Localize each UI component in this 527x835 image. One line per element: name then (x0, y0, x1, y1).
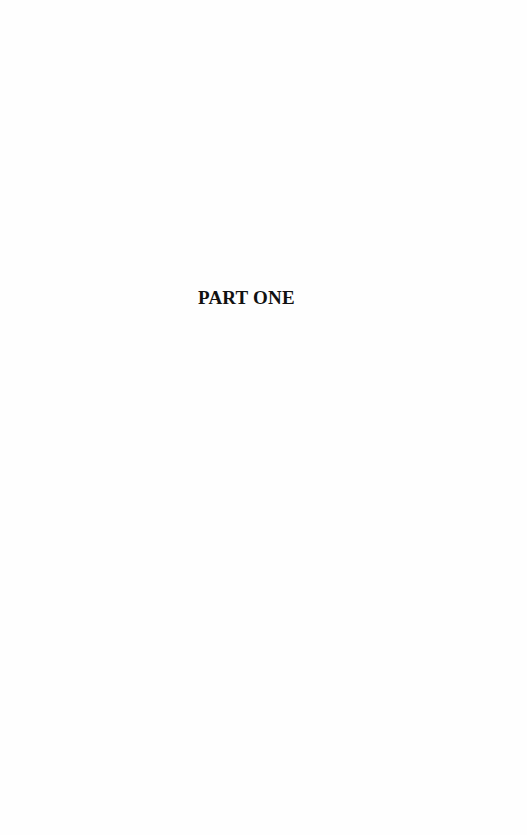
book-page: PART ONE (0, 0, 527, 835)
part-title-heading: PART ONE (198, 287, 295, 309)
